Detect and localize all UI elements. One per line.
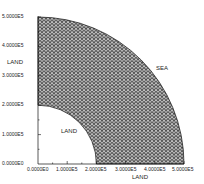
y-tick-label: 3.0000E5: [2, 73, 23, 78]
mesh-plot: [0, 0, 204, 184]
sea-region-label: SEA: [156, 65, 168, 71]
y-tick-label: 5.0000E5: [2, 14, 23, 19]
y-tick-label: 4.0000E5: [2, 43, 23, 48]
x-tick-label: 4.0000E5: [144, 167, 165, 172]
mesh-region: [38, 17, 184, 164]
land-region-label: LAND: [61, 128, 77, 134]
y-tick-label: 1.0000E5: [2, 132, 23, 137]
x-tick-label: 1.0000E5: [56, 167, 77, 172]
x-tick-label: 5.0000E5: [172, 167, 193, 172]
x-tick-label: 0.0000E0: [27, 167, 48, 172]
x-tick-label: 2.0000E5: [85, 167, 106, 172]
x-axis-title: LAND: [132, 174, 148, 180]
y-tick-label: 2.0000E5: [2, 102, 23, 107]
x-tick-label: 3.0000E5: [115, 167, 136, 172]
y-axis-title: LAND: [7, 59, 23, 65]
y-tick-label: 0.0000E0: [2, 161, 23, 166]
